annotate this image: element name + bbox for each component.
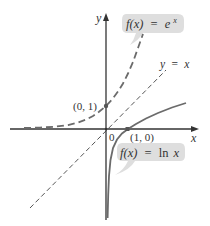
exp-curve <box>24 34 143 128</box>
x-axis-label: x <box>190 131 197 145</box>
point-0-1-label: (0, 1) <box>73 100 97 113</box>
identity-label: y = x <box>159 58 190 71</box>
point-0-1 <box>104 104 108 108</box>
point-1-0 <box>126 127 130 131</box>
ln-label: f(x) = ln x <box>120 146 180 160</box>
exp-label: f(x) = e x <box>126 16 177 31</box>
exp-ln-inverse-diagram: y x 0 (0, 1) (1, 0) y = x f(x) = e x f(x… <box>0 0 210 226</box>
origin-label: 0 <box>109 131 115 143</box>
y-axis-label: y <box>95 11 102 25</box>
y-axis-arrow-icon <box>103 13 109 21</box>
point-origin <box>105 128 107 130</box>
point-1-0-label: (1, 0) <box>130 131 154 144</box>
